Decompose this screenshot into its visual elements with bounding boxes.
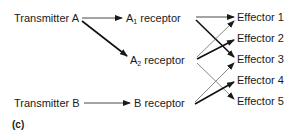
a2-receptor-label: A2 receptor [130,54,185,66]
arrow-a2-to-effector-2 [197,40,234,59]
effector-1-label: Effector 1 [237,11,284,23]
a2-receptor-suffix: receptor [141,54,184,66]
arrow-a1-to-effector-3 [196,20,234,57]
transmitter-b-label: Transmitter B [14,97,80,109]
effector-5-label: Effector 5 [237,95,284,107]
effector-3-label: Effector 3 [237,53,284,65]
arrow-transmitter-a-to-a2 [82,21,127,56]
arrow-b-to-effector-3 [195,63,234,102]
a1-receptor-suffix: receptor [137,12,180,24]
b-receptor-label: B receptor [134,97,185,109]
a1-receptor-label: A1 receptor [126,12,181,24]
panel-label: (c) [12,119,24,130]
transmitter-a-label: Transmitter A [14,12,79,24]
effector-4-label: Effector 4 [237,74,284,86]
effector-2-label: Effector 2 [237,32,284,44]
